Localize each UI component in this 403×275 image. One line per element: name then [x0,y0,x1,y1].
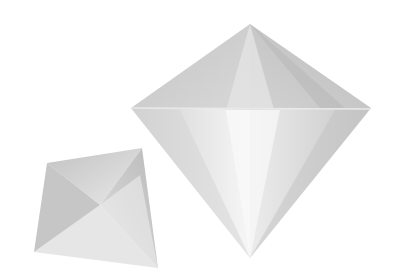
large-octahedron [131,24,371,258]
small-octahedron [34,148,158,268]
scene [0,0,403,275]
